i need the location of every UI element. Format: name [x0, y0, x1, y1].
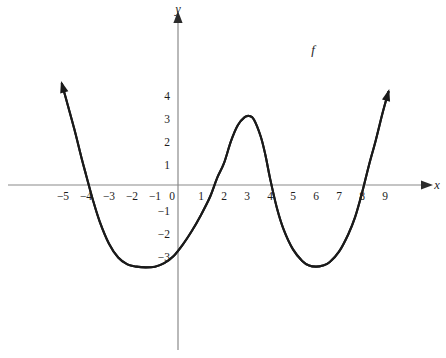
- y-tick-label-2: 2: [164, 136, 170, 148]
- x-tick-label-1: 1: [198, 190, 204, 202]
- curve-right-arrowhead: [382, 89, 390, 102]
- x-tick-label-9: 9: [382, 190, 388, 202]
- x-axis-label: x: [433, 178, 440, 192]
- function-curve: [62, 84, 389, 268]
- x-tick-label--1: −1: [149, 190, 161, 202]
- x-tick-label--3: −3: [103, 190, 115, 202]
- function-curve-main: [62, 84, 389, 268]
- y-tick-label-4: 4: [164, 90, 170, 102]
- x-tick-label-5: 5: [290, 190, 296, 202]
- x-tick-label-0: 0: [169, 190, 175, 202]
- y-tick-label--1: −1: [158, 205, 170, 217]
- y-tick-label--2: −2: [158, 228, 170, 240]
- y-axis-label: y: [173, 2, 181, 16]
- x-tick-label-2: 2: [221, 190, 227, 202]
- x-axis-arrowhead: [421, 180, 433, 189]
- coordinate-plane: x y −5 −4 −3 −2 −1 0 1 2 3 4 5 6 7 8 9 4…: [0, 0, 446, 358]
- x-tick-label-7: 7: [336, 190, 342, 202]
- x-tick-label-6: 6: [313, 190, 319, 202]
- curve-left-arrowhead: [60, 81, 68, 94]
- y-tick-label-3: 3: [164, 113, 170, 125]
- x-tick-label-3: 3: [244, 190, 250, 202]
- x-tick-label--2: −2: [126, 190, 138, 202]
- x-tick-label--5: −5: [57, 190, 69, 202]
- graph-figure: x y −5 −4 −3 −2 −1 0 1 2 3 4 5 6 7 8 9 4…: [0, 0, 446, 358]
- y-tick-label-1: 1: [164, 159, 170, 171]
- curve-label-f: f: [311, 42, 317, 57]
